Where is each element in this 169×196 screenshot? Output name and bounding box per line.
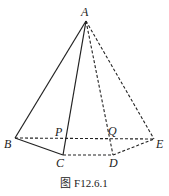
segment-DE [113, 139, 154, 155]
segment-AE [86, 21, 154, 139]
segment-BC [15, 138, 63, 155]
label-A: A [80, 5, 89, 19]
label-B: B [4, 137, 12, 151]
figure-caption: 图 F12.6.1 [60, 177, 107, 189]
label-E: E [155, 137, 164, 151]
geometry-diagram: A B C D E P Q 图 F12.6.1 [0, 0, 169, 196]
segment-BE [15, 138, 154, 139]
label-C: C [56, 156, 65, 170]
segment-AB [15, 21, 86, 138]
label-Q: Q [108, 124, 117, 138]
label-P: P [54, 125, 63, 139]
label-D: D [108, 156, 118, 170]
